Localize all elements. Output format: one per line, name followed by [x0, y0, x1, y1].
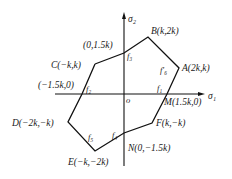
segment-f4-label: f₄	[112, 130, 117, 140]
segment-f2-label: f₂	[86, 84, 91, 94]
vertex-e-label: E(−k,−2k)	[67, 157, 109, 168]
sigma1-label: σ₁	[208, 91, 216, 101]
vertex-f-label: F(k,−k)	[155, 118, 185, 129]
sigma2-arrowhead-icon	[122, 12, 126, 19]
segment-f3-label: f₃	[127, 51, 132, 61]
vertex-c-label: C(−k,k)	[51, 60, 81, 71]
vertex-b-label: B(k,2k)	[151, 26, 179, 37]
segment-f1-label: f₁	[157, 83, 162, 93]
top-intercept-label: (0,1.5k)	[83, 40, 113, 51]
vertex-a-label: A(2k,k)	[181, 63, 210, 74]
origin-label: o	[126, 95, 130, 105]
vertex-n-label: N(0,−1.5k)	[127, 143, 170, 154]
yield-locus-diagram: σ₂ σ₁ o B(k,2k) A(2k,k) M(1.5k,0) F(k,−k…	[0, 0, 232, 179]
vertex-d-label: D(−2k,−k)	[11, 118, 54, 129]
segment-f6p-label: f′₆	[160, 65, 167, 75]
left-intercept-label: (−1.5k,0)	[38, 80, 74, 91]
sigma1-arrowhead-icon	[198, 92, 205, 96]
vertex-m-label: M(1.5k,0)	[163, 97, 201, 108]
segment-f5-label: f₅	[88, 132, 93, 142]
sigma2-label: σ₂	[128, 14, 137, 24]
